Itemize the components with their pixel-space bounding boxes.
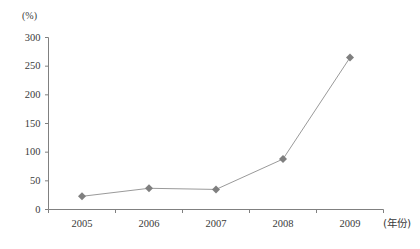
data-point-marker <box>212 185 220 193</box>
x-axis-tick-label: 2008 <box>253 218 313 229</box>
x-axis-tick-label: 2009 <box>320 218 380 229</box>
x-axis-title: (年份) <box>383 218 411 229</box>
y-axis-tick-label: 150 <box>7 118 41 129</box>
data-point-marker <box>346 54 354 62</box>
axis-lines <box>49 38 384 210</box>
y-axis-tick-label: 100 <box>7 146 41 157</box>
y-axis-tick-label: 0 <box>7 204 41 215</box>
data-point-marker <box>145 184 153 192</box>
x-axis-tick-label: 2007 <box>186 218 246 229</box>
y-axis-tick-label: 300 <box>7 32 41 43</box>
chart-canvas <box>0 0 420 249</box>
y-axis-tick-label: 250 <box>7 60 41 71</box>
axis-ticks <box>45 38 384 214</box>
line-chart: (%) 050100150200250300 20052006200720082… <box>0 0 420 249</box>
x-axis-tick-label: 2006 <box>119 218 179 229</box>
y-axis-tick-label: 50 <box>7 175 41 186</box>
data-point-marker <box>279 155 287 163</box>
data-point-markers <box>78 54 354 201</box>
data-point-marker <box>78 192 86 200</box>
series-line <box>82 58 350 197</box>
y-axis-tick-label: 200 <box>7 89 41 100</box>
x-axis-tick-label: 2005 <box>52 218 112 229</box>
